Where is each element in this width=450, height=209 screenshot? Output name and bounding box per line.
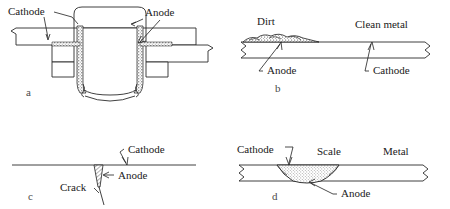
cathode-leader	[120, 149, 126, 163]
lower-left-plate-2	[52, 62, 74, 77]
crack-wedge	[94, 165, 103, 187]
cathode-leader	[285, 147, 293, 163]
panel-letter-c: c	[28, 190, 33, 202]
label-cathode: Cathode	[237, 143, 274, 155]
crack-leader	[94, 188, 99, 193]
label-cathode: Cathode	[8, 5, 45, 17]
figure-corrosion-cells: Cathode Anode a	[0, 0, 450, 209]
label-anode: Anode	[145, 6, 174, 18]
cathode-arrowhead	[286, 157, 292, 165]
right-plate-foot	[146, 62, 168, 77]
panel-letter-b: b	[275, 82, 281, 94]
panel-b-dirt-deposit: Dirt Clean metal Anode Cathode b	[225, 0, 450, 105]
corrosion-right-interface	[140, 42, 172, 46]
rivet-shank	[80, 28, 140, 95]
label-dirt: Dirt	[257, 15, 275, 27]
panel-letter-d: d	[272, 190, 278, 202]
label-metal: Metal	[383, 145, 409, 157]
metal-bar	[241, 42, 430, 58]
corrosion-left-interface	[52, 42, 80, 46]
label-scale: Scale	[317, 145, 341, 157]
lower-left-plate	[52, 45, 74, 62]
panel-c-crack: Cathode Anode Crack c	[0, 105, 225, 209]
label-crack: Crack	[60, 181, 87, 193]
panel-d-scale-pit: Cathode Scale Metal Anode d	[225, 105, 450, 209]
label-anode: Anode	[267, 64, 296, 76]
label-clean-metal: Clean metal	[355, 18, 408, 30]
shank-bottom-curve	[85, 96, 135, 101]
dirt-deposit	[243, 34, 319, 42]
label-anode: Anode	[341, 187, 370, 199]
panel-a-riveted-joint: Cathode Anode a	[0, 0, 225, 105]
label-anode: Anode	[118, 169, 147, 181]
anode-leader	[311, 183, 337, 194]
panel-letter-a: a	[26, 86, 31, 98]
crack-tail	[99, 187, 104, 205]
rivet-head	[74, 7, 146, 28]
lower-right-plate	[146, 45, 213, 62]
label-cathode: Cathode	[373, 64, 410, 76]
label-cathode: Cathode	[128, 143, 165, 155]
